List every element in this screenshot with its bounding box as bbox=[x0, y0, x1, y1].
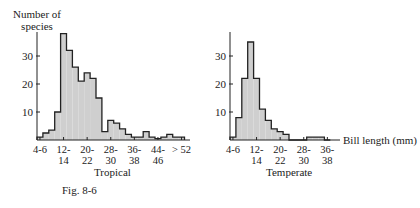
chart-title-tropical: Tropical bbox=[94, 166, 131, 178]
histogram-bar bbox=[67, 50, 73, 140]
histogram-bar bbox=[61, 34, 67, 140]
histogram-canvas: 102030102030 bbox=[0, 0, 420, 208]
histogram-bar bbox=[78, 81, 84, 140]
y-tick-label: 30 bbox=[215, 50, 227, 62]
histogram-tropical: 102030 bbox=[22, 32, 190, 140]
histogram-bar bbox=[72, 67, 78, 140]
histogram-bar bbox=[242, 78, 248, 140]
y-axis-label-line1: Number of bbox=[12, 8, 62, 20]
histogram-bar bbox=[55, 112, 61, 140]
histogram-bar bbox=[283, 134, 289, 140]
y-tick-label: 30 bbox=[22, 50, 34, 62]
histogram-bar bbox=[271, 129, 277, 140]
x-tick-label: 36- 38 bbox=[127, 144, 141, 166]
x-tick-label: 4-6 bbox=[33, 144, 47, 155]
y-axis-label-line2: species bbox=[12, 20, 62, 32]
y-tick-label: 20 bbox=[215, 78, 227, 90]
histogram-temperate: 102030 bbox=[215, 32, 340, 140]
x-tick-label: 44- 46 bbox=[151, 144, 165, 166]
y-axis-label: Number of species bbox=[12, 8, 62, 32]
chart-title-temperate: Temperate bbox=[266, 166, 312, 178]
x-tick-label: 20- 22 bbox=[273, 144, 287, 166]
histogram-bar bbox=[114, 123, 120, 140]
x-tick-label: 28- 30 bbox=[104, 144, 118, 166]
histogram-bar bbox=[90, 78, 96, 140]
x-axis-label: Bill length (mm) bbox=[343, 134, 417, 146]
y-tick-label: 20 bbox=[22, 78, 34, 90]
x-tick-label: 36- 38 bbox=[320, 144, 334, 166]
x-tick-label: 28- 30 bbox=[297, 144, 311, 166]
histogram-bar bbox=[254, 78, 260, 140]
x-tick-label: 12- 14 bbox=[250, 144, 264, 166]
histogram-bar bbox=[167, 134, 173, 140]
histogram-bar bbox=[260, 109, 266, 140]
y-tick-label: 10 bbox=[215, 106, 227, 118]
x-tick-label: 12- 14 bbox=[57, 144, 71, 166]
x-tick-label: 20- 22 bbox=[80, 144, 94, 166]
histogram-bar bbox=[126, 134, 132, 140]
histogram-bar bbox=[49, 130, 55, 140]
x-tick-label: 4-6 bbox=[226, 144, 240, 155]
histogram-bar bbox=[265, 120, 271, 140]
x-tick-label: > 52 bbox=[172, 144, 191, 155]
histogram-bar bbox=[236, 118, 242, 140]
histogram-bar bbox=[120, 129, 126, 140]
figure-caption: Fig. 8-6 bbox=[62, 184, 97, 196]
histogram-bar bbox=[102, 132, 108, 140]
y-tick-label: 10 bbox=[22, 106, 34, 118]
histogram-bar bbox=[84, 73, 90, 140]
histogram-bar bbox=[43, 133, 49, 140]
histogram-bar bbox=[143, 132, 149, 140]
histogram-bar bbox=[96, 98, 102, 140]
histogram-bar bbox=[248, 42, 254, 140]
